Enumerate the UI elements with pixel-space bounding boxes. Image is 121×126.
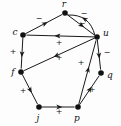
edge-sign-positive: + bbox=[20, 86, 27, 95]
edge-sign-negative: − bbox=[104, 48, 111, 57]
edge-p-u: + bbox=[78, 40, 96, 104]
graph-node-u[interactable] bbox=[94, 34, 100, 40]
node-label-c: c bbox=[12, 27, 17, 37]
arrowhead-icon bbox=[27, 87, 34, 95]
edge-sign-positive: + bbox=[56, 53, 63, 62]
edge-sign-negative: − bbox=[79, 19, 86, 28]
edge-j-p: + bbox=[42, 105, 75, 116]
graph-node-c[interactable] bbox=[20, 32, 26, 38]
arrowhead-icon bbox=[85, 66, 91, 73]
node-label-q: q bbox=[107, 70, 113, 80]
edge-sign-positive: + bbox=[56, 38, 63, 47]
graph-node-f[interactable] bbox=[18, 69, 24, 75]
node-label-u: u bbox=[103, 28, 109, 38]
arrowhead-icon bbox=[41, 20, 49, 27]
edge-c-r: − bbox=[25, 14, 62, 34]
edge-layer: −−−+++++++− bbox=[10, 9, 111, 116]
edge-f-j: + bbox=[20, 74, 38, 104]
edge-line bbox=[25, 15, 62, 34]
edge-sign-positive: + bbox=[10, 47, 17, 56]
edge-sign-positive: + bbox=[89, 85, 96, 94]
edge-sign-positive: + bbox=[56, 107, 63, 116]
edge-line bbox=[79, 40, 96, 104]
node-label-j: j bbox=[35, 113, 40, 123]
graph-node-j[interactable] bbox=[36, 104, 42, 110]
edge-c-f: + bbox=[10, 38, 25, 69]
graph-node-p[interactable] bbox=[75, 104, 81, 110]
graph-node-q[interactable] bbox=[98, 70, 104, 76]
node-label-r: r bbox=[62, 0, 67, 9]
signed-graph-figure: −−−+++++++− rcufqjp bbox=[0, 0, 121, 126]
edge-line bbox=[26, 35, 94, 37]
node-label-p: p bbox=[74, 113, 80, 123]
edge-sign-negative: − bbox=[81, 9, 88, 18]
edge-sign-negative: − bbox=[36, 14, 43, 23]
edge-u-q: − bbox=[96, 40, 110, 70]
edge-u-c: + bbox=[26, 33, 94, 47]
graph-node-r[interactable] bbox=[62, 10, 68, 16]
node-label-f: f bbox=[10, 67, 16, 77]
edge-sign-positive: + bbox=[78, 58, 85, 67]
graph-canvas: −−−+++++++− rcufqjp bbox=[0, 0, 121, 126]
